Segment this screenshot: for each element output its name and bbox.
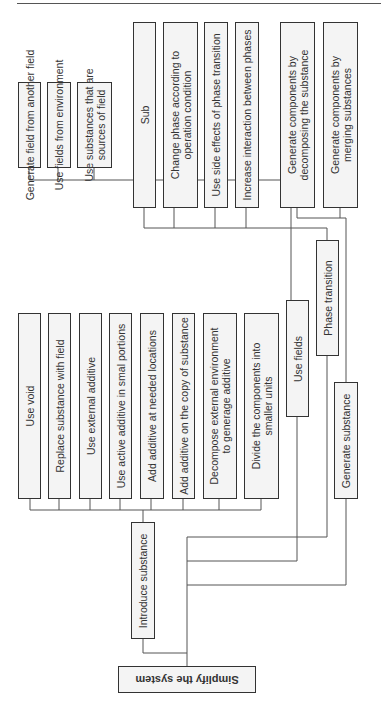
leaf-generate-components-decomposing: Generate components bydecomposing the su… (280, 22, 315, 208)
node-label: smaller units (262, 343, 274, 470)
node-label: Use active additive in smal portions (115, 324, 127, 489)
node-label: Generate components by (286, 50, 298, 181)
node-label: Use fields from environment (53, 60, 65, 191)
leaf-replace-substance-with-field: Replace substance with field (48, 313, 71, 499)
leaf-use-external-additive: Use external additive (79, 313, 102, 499)
node-label: merging substances (341, 56, 353, 174)
node-label: Use void (24, 386, 36, 427)
node-label: Divide the components into (250, 343, 262, 470)
leaf-change-phase-operation-condition: Change phase according tooperation condi… (163, 22, 198, 208)
leaf-use-side-effects-phase-transition: Use side effects of phase transition (204, 22, 228, 208)
node-label: Generate field from another field (24, 50, 36, 201)
leaf-divide-components-smaller-units: Divide the components intosmaller units (244, 313, 279, 499)
leaf-use-active-additive-small-portions: Use active additive in smal portions (109, 313, 132, 499)
leaf-decompose-external-environment: Decompose external environmentto generag… (203, 313, 237, 499)
node-label: operation condition (181, 51, 193, 179)
leaf-add-additive-copy-of-substance: Add additive on the copy of substance (172, 313, 195, 499)
node-label: Introduce substance (137, 533, 149, 628)
node-label: Generate components by (329, 56, 341, 174)
node-introduce-substance: Introduce substance (131, 522, 155, 639)
node-label: Replace substance with field (54, 339, 66, 472)
node-label: decomposing the substance (298, 50, 310, 181)
node-label: sources of field (95, 68, 107, 181)
root-label: Simplify the system (135, 674, 238, 686)
node-label: Sub (139, 106, 151, 125)
node-label: Add additive at needed locations (146, 330, 158, 482)
node-label: Use substances that are (83, 68, 95, 181)
node-label: to generage additive (220, 328, 232, 485)
node-use-fields: Use fields (286, 300, 309, 417)
leaf-add-additive-needed-locations: Add additive at needed locations (140, 313, 164, 499)
leaf-use-fields-from-environment: Use fields from environment (47, 82, 71, 168)
leaf-increase-interaction-between-phases: Increase interaction between phases (235, 22, 259, 208)
node-phase-transition: Phase transition (316, 240, 339, 356)
node-label: Use side effects of phase transition (210, 33, 222, 196)
node-label: Increase interaction between phases (241, 29, 253, 200)
node-label: Use external additive (85, 357, 97, 455)
node-label: Change phase according to (169, 51, 181, 179)
leaf-use-void: Use void (18, 313, 41, 499)
node-label: Phase transition (322, 260, 334, 335)
node-root-simplify-the-system: Simplify the system (118, 666, 256, 693)
leaf-generate-field-from-another-field: Generate field from another field (18, 82, 41, 168)
leaf-sub: Sub (133, 22, 156, 208)
leaf-use-substances-sources-of-field: Use substances that aresources of field (77, 82, 112, 168)
leaf-generate-components-merging: Generate components bymerging substances (323, 22, 358, 208)
node-generate-substance: Generate substance (334, 382, 358, 499)
node-label: Add additive on the copy of substance (178, 317, 190, 494)
node-label: Generate substance (340, 393, 352, 488)
node-label: Use fields (292, 335, 304, 381)
node-label: Decompose external environment (208, 328, 220, 485)
